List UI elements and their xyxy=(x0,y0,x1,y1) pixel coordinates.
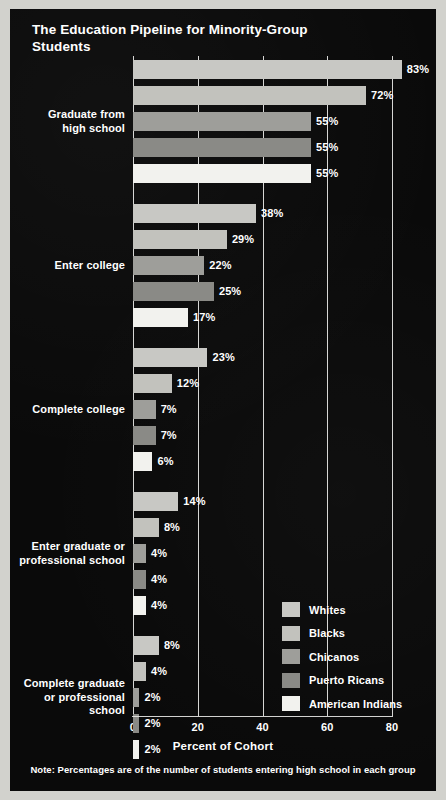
x-axis-title: Percent of Cohort xyxy=(10,740,436,752)
legend-swatch xyxy=(282,673,300,688)
bar xyxy=(133,740,139,759)
bar xyxy=(133,230,227,249)
bar-value-label: 55% xyxy=(316,138,338,157)
bar-value-label: 6% xyxy=(157,452,173,471)
x-axis-line xyxy=(132,716,393,717)
legend-swatch xyxy=(282,696,300,711)
bar-value-label: 8% xyxy=(164,518,180,537)
legend-swatch xyxy=(282,649,300,664)
bar xyxy=(133,570,146,589)
bar-value-label: 12% xyxy=(177,374,199,393)
bar xyxy=(133,138,311,157)
group-label: Enter graduate or professional school xyxy=(16,540,125,567)
chart-legend: WhitesBlacksChicanosPuerto RicansAmerica… xyxy=(282,598,402,716)
bar-value-label: 29% xyxy=(232,230,254,249)
bar-value-label: 22% xyxy=(209,256,231,275)
bar xyxy=(133,636,159,655)
bar xyxy=(133,518,159,537)
legend-swatch xyxy=(282,626,300,641)
bar xyxy=(133,662,146,681)
bar xyxy=(133,282,214,301)
bar xyxy=(133,60,402,79)
bar-value-label: 23% xyxy=(212,348,234,367)
bar xyxy=(133,452,152,471)
bar-value-label: 17% xyxy=(193,308,215,327)
group-label: Complete college xyxy=(16,403,125,417)
bar-value-label: 83% xyxy=(407,60,429,79)
bar xyxy=(133,86,366,105)
bar xyxy=(133,596,146,615)
x-tick-label-40: 40 xyxy=(243,721,283,733)
bar-value-label: 4% xyxy=(151,596,167,615)
legend-item: Chicanos xyxy=(282,645,402,669)
bar xyxy=(133,426,156,445)
legend-label: Whites xyxy=(309,604,346,616)
group-label: Complete graduate or professional school xyxy=(16,677,125,718)
chart-title: The Education Pipeline for Minority-Grou… xyxy=(32,22,332,55)
legend-label: Blacks xyxy=(309,627,345,639)
group-label: Graduate from high school xyxy=(16,108,125,135)
bar-value-label: 2% xyxy=(144,740,160,759)
legend-label: Chicanos xyxy=(309,651,359,663)
bar xyxy=(133,492,178,511)
legend-item: Blacks xyxy=(282,622,402,646)
bar-value-label: 8% xyxy=(164,636,180,655)
bar xyxy=(133,400,156,419)
figure-frame: The Education Pipeline for Minority-Grou… xyxy=(0,0,446,800)
x-tick-label-80: 80 xyxy=(372,721,412,733)
chart-note: Note: Percentages are of the number of s… xyxy=(10,764,436,775)
bar xyxy=(133,308,188,327)
legend-swatch xyxy=(282,602,300,617)
x-tick-label-20: 20 xyxy=(178,721,218,733)
group-label: Enter college xyxy=(16,259,125,273)
bar-value-label: 7% xyxy=(161,400,177,419)
bar-value-label: 55% xyxy=(316,164,338,183)
bar xyxy=(133,112,311,131)
bar-value-label: 55% xyxy=(316,112,338,131)
legend-label: American Indians xyxy=(309,698,402,710)
chart-panel: The Education Pipeline for Minority-Grou… xyxy=(10,9,436,791)
legend-item: Whites xyxy=(282,598,402,622)
legend-label: Puerto Ricans xyxy=(309,674,384,686)
bar-value-label: 38% xyxy=(261,204,283,223)
bar-value-label: 2% xyxy=(144,688,160,707)
bar xyxy=(133,374,172,393)
bar-value-label: 4% xyxy=(151,544,167,563)
bar-value-label: 7% xyxy=(161,426,177,445)
bar-value-label: 4% xyxy=(151,570,167,589)
legend-item: Puerto Ricans xyxy=(282,669,402,693)
bar xyxy=(133,204,256,223)
bar-value-label: 14% xyxy=(183,492,205,511)
bar xyxy=(133,256,204,275)
bar xyxy=(133,164,311,183)
bar xyxy=(133,688,139,707)
x-tick-label-60: 60 xyxy=(307,721,347,733)
bar xyxy=(133,544,146,563)
bar xyxy=(133,348,207,367)
bar-value-label: 4% xyxy=(151,662,167,681)
legend-item: American Indians xyxy=(282,692,402,716)
bar-value-label: 25% xyxy=(219,282,241,301)
bar-value-label: 72% xyxy=(371,86,393,105)
